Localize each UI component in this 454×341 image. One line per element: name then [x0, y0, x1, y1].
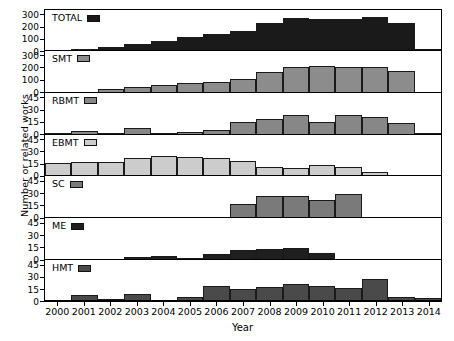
y-tick — [40, 151, 45, 152]
legend-swatch — [84, 97, 97, 104]
x-tick-label: 2008 — [257, 307, 281, 317]
y-tick — [40, 265, 45, 266]
bar — [256, 287, 282, 301]
bar — [309, 286, 335, 301]
bar — [362, 279, 388, 301]
x-tick-label: 2011 — [337, 307, 361, 317]
y-tick-label: 300 — [22, 51, 39, 60]
y-tick-label: 45 — [28, 261, 39, 270]
y-tick — [40, 223, 45, 224]
legend-total: TOTAL — [52, 13, 100, 23]
bar-series-me — [45, 218, 441, 260]
y-tick — [40, 235, 45, 236]
y-tick — [40, 14, 45, 15]
y-tick — [40, 97, 45, 98]
legend-rbmt: RBMT — [52, 96, 97, 106]
y-tick-label: 15 — [28, 201, 39, 210]
bar — [283, 67, 309, 92]
y-tick — [40, 205, 45, 206]
bar — [256, 72, 282, 92]
y-tick-label: 0 — [33, 297, 39, 306]
panel-rbmt: 0153045RBMT — [44, 93, 442, 135]
y-tick-label: 30 — [28, 231, 39, 240]
x-axis: 2000200120022003200420052006200720082009… — [44, 302, 442, 320]
legend-label: HMT — [52, 263, 73, 273]
bar — [362, 67, 388, 93]
bar — [309, 200, 335, 218]
legend-swatch — [70, 181, 83, 188]
bar — [388, 71, 414, 93]
panel-total: 0100200300TOTAL — [44, 9, 442, 51]
legend-label: SC — [52, 179, 65, 189]
bar — [177, 37, 203, 50]
y-tick-label: 15 — [28, 118, 39, 127]
y-tick — [40, 164, 45, 165]
y-tick — [40, 39, 45, 40]
y-tick-label: 45 — [28, 219, 39, 228]
y-tick-label: 15 — [28, 243, 39, 252]
y-tick-label: 15 — [28, 285, 39, 294]
y-tick — [40, 181, 45, 182]
legend-label: SMT — [52, 54, 72, 64]
panel-sc: 0153045SC — [44, 176, 442, 218]
bar-series-hmt — [45, 260, 441, 301]
bar — [98, 162, 124, 177]
y-tick-label: 30 — [28, 273, 39, 282]
y-tick — [40, 277, 45, 278]
bar — [283, 18, 309, 51]
y-tick — [40, 55, 45, 56]
bar-series-sc — [45, 176, 441, 218]
y-tick — [40, 289, 45, 290]
legend-swatch — [77, 55, 90, 62]
bar — [177, 157, 203, 177]
y-tick — [40, 193, 45, 194]
y-tick-label: 100 — [22, 35, 39, 44]
x-tick-label: 2000 — [45, 307, 69, 317]
y-tick-label: 45 — [28, 177, 39, 186]
y-tick-label: 15 — [28, 160, 39, 169]
x-tick-label: 2014 — [417, 307, 441, 317]
bar — [283, 284, 309, 301]
bar — [124, 158, 150, 177]
y-tick — [40, 247, 45, 248]
y-tick-label: 200 — [22, 63, 39, 72]
y-tick-label: 100 — [22, 76, 39, 85]
panel-me: 0153045ME — [44, 218, 442, 260]
bar — [283, 115, 309, 135]
legend-ebmt: EBMT — [52, 138, 97, 148]
x-tick-label: 2013 — [390, 307, 414, 317]
bar — [309, 19, 335, 51]
y-tick-label: 30 — [28, 106, 39, 115]
bar-series-smt — [45, 51, 441, 93]
bar — [388, 23, 414, 51]
plot-area-sc — [45, 176, 441, 218]
bar — [362, 17, 388, 51]
panel-stack: 0100200300TOTAL0100200300SMT0153045RBMT0… — [44, 9, 442, 302]
baseline — [45, 300, 441, 301]
y-tick-label: 30 — [28, 189, 39, 198]
bar — [151, 156, 177, 176]
y-tick — [40, 67, 45, 68]
bar — [283, 196, 309, 218]
bar — [203, 34, 229, 51]
y-tick — [40, 139, 45, 140]
bar — [335, 194, 361, 219]
y-tick — [40, 110, 45, 111]
legend-hmt: HMT — [52, 263, 91, 273]
bar — [309, 66, 335, 92]
bar — [335, 19, 361, 51]
plot-area-ebmt — [45, 135, 441, 177]
x-axis-label: Year — [40, 322, 445, 333]
x-tick-label: 2005 — [178, 307, 202, 317]
x-tick-label: 2002 — [98, 307, 122, 317]
bar — [203, 286, 229, 301]
bar — [203, 158, 229, 177]
legend-swatch — [84, 139, 97, 146]
legend-label: ME — [52, 221, 66, 231]
y-tick-label: 200 — [22, 23, 39, 32]
y-tick-label: 30 — [28, 147, 39, 156]
bar — [256, 119, 282, 135]
bar — [256, 23, 282, 50]
legend-sc: SC — [52, 179, 83, 189]
panel-smt: 0100200300SMT — [44, 51, 442, 93]
